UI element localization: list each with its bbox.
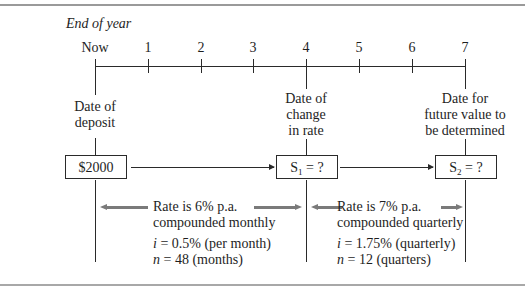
arrow-left-icon (100, 204, 107, 210)
arrow-right-icon (295, 204, 302, 210)
caption-deposit: Date of deposit (74, 99, 116, 131)
tick-5 (359, 59, 360, 73)
period1-n: n = 48 (months) (153, 252, 243, 268)
s2-symbol: S (449, 160, 457, 175)
timeline-axis (95, 66, 466, 67)
tick-label-6: 6 (409, 40, 416, 56)
tick-label-now: Now (81, 40, 108, 56)
arrow-right-icon (456, 204, 463, 210)
tick-1 (148, 59, 149, 73)
tick-label-3: 3 (250, 40, 257, 56)
change-connector-bottom (306, 180, 307, 262)
change-connector-mid (306, 138, 307, 155)
period1-n-value: = 48 (months) (160, 252, 243, 267)
period1-right-arrow (254, 206, 296, 209)
period2-n-value: = 12 (quarters) (344, 252, 431, 267)
caption-future-line2: future value to (424, 107, 506, 123)
tick-2 (201, 59, 202, 73)
arrow-left-icon (311, 204, 318, 210)
future-connector-mid (465, 138, 466, 155)
caption-future-line1: Date for (424, 91, 506, 107)
arrowhead-icon (269, 164, 275, 170)
period2-i-value: = 1.75% (quarterly) (341, 236, 455, 251)
flow-arrow-deposit-to-s1 (131, 167, 274, 168)
tick-label-2: 2 (198, 40, 205, 56)
caption-change: Date of change in rate (285, 91, 327, 139)
caption-future-line3: be determined (424, 123, 506, 139)
tick-label-7: 7 (462, 40, 469, 56)
arrowhead-icon (428, 164, 434, 170)
period2-n: n = 12 (quarters) (337, 252, 431, 268)
tick-3 (253, 59, 254, 73)
caption-change-line3: in rate (285, 123, 327, 139)
s1-equals: = ? (303, 160, 324, 175)
caption-future: Date for future value to be determined (424, 91, 506, 139)
bottom-border (0, 284, 525, 286)
deposit-box: $2000 (65, 155, 127, 179)
s1-box: S1 = ? (276, 155, 338, 179)
caption-deposit-line1: Date of (74, 99, 116, 115)
future-connector-bottom (465, 180, 466, 262)
period2-n-var: n (337, 252, 344, 267)
period1-left-arrow (106, 206, 148, 209)
caption-change-line2: change (285, 107, 327, 123)
period1-i-value: = 0.5% (per month) (157, 236, 271, 251)
tick-label-4: 4 (303, 40, 310, 56)
period2-i: i = 1.75% (quarterly) (337, 236, 455, 252)
caption-change-line1: Date of (285, 91, 327, 107)
period1-i: i = 0.5% (per month) (153, 236, 271, 252)
s2-box: S2 = ? (435, 155, 497, 179)
period2-rate-line1: Rate is 7% p.a. (337, 199, 421, 215)
period1-n-var: n (153, 252, 160, 267)
change-connector-top (306, 59, 307, 89)
future-connector-top (465, 59, 466, 89)
s2-equals: = ? (462, 160, 483, 175)
period2-rate-line2: compounded quarterly (337, 215, 463, 231)
period1-rate-line2: compounded monthly (153, 215, 276, 231)
deposit-connector-bottom (95, 180, 96, 262)
period1-rate-line1: Rate is 6% p.a. (153, 199, 237, 215)
tick-6 (412, 59, 413, 73)
deposit-connector-top (95, 59, 96, 95)
s1-symbol: S (290, 160, 298, 175)
deposit-connector-mid (95, 138, 96, 155)
flow-arrow-s1-to-s2 (340, 167, 433, 168)
timeline-heading: End of year (66, 16, 131, 32)
tick-label-1: 1 (145, 40, 152, 56)
period2-right-arrow (441, 206, 457, 209)
caption-deposit-line2: deposit (74, 115, 116, 131)
tick-label-5: 5 (356, 40, 363, 56)
top-border (0, 4, 525, 6)
